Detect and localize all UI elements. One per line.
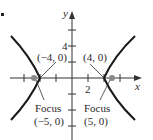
vertex-right-label: (4, 0) [83,51,107,64]
focus-right-leader [100,80,110,100]
vertex-left-label: (−4, 0) [37,51,67,64]
y-axis-label: y [62,7,68,19]
focus-left-title: Focus [35,102,61,114]
focus-right-label: (5, 0) [84,115,108,128]
vertex-right-leader [90,64,104,78]
vertex-left-leader [40,62,56,78]
hyperbola-diagram: y x 2 4 (−4, 0) (4, 0) Focus (−5, 0) Foc… [0,0,153,140]
figure-marker [1,13,4,16]
y-axis [68,11,76,140]
focus-left-leader [36,80,44,100]
x-axis [10,74,142,82]
focus-left-label: (−5, 0) [34,115,64,128]
focus-right-title: Focus [84,102,110,114]
x-tick-label: 2 [85,83,91,95]
y-axis-arrow-icon [69,11,75,19]
x-axis-label: x [134,80,140,92]
